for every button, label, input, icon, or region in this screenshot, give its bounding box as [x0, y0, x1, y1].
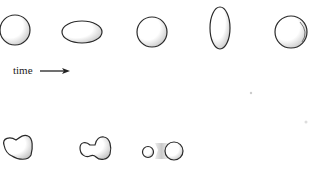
- droplet-frame-4-prolate: [210, 7, 230, 49]
- speck: [305, 121, 308, 124]
- time-label: time: [13, 64, 33, 76]
- droplet-frame-8-separated: [143, 142, 184, 160]
- droplet-diagram: [0, 0, 313, 170]
- droplet-frame-6-pear: [4, 135, 33, 159]
- droplet-frame-7-necking: [80, 137, 111, 160]
- droplet-frame-5-sphere: [275, 16, 307, 48]
- time-arrow-icon: [40, 68, 70, 74]
- speck: [250, 92, 252, 94]
- droplet-frame-1-sphere: [0, 15, 30, 45]
- droplet-frame-2-oblate: [62, 21, 102, 43]
- droplet-frame-3-sphere: [137, 17, 167, 47]
